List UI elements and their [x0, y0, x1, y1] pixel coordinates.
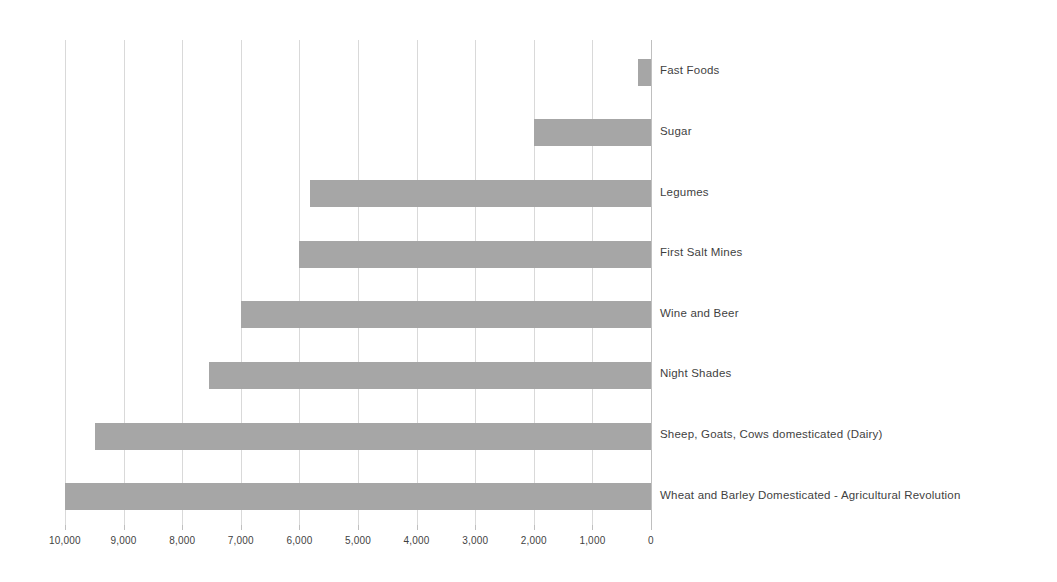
x-tick-mark — [182, 525, 183, 530]
x-tick-mark — [358, 525, 359, 530]
x-tick-mark — [299, 525, 300, 530]
bar[interactable] — [638, 59, 651, 86]
x-tick-mark — [241, 525, 242, 530]
bar-row — [65, 241, 651, 268]
gridline-7000 — [241, 40, 242, 525]
x-tick-mark — [592, 525, 593, 530]
x-tick-label: 10,000 — [35, 535, 95, 546]
bar-chart: Fast FoodsSugarLegumesFirst Salt MinesWi… — [0, 0, 1057, 582]
x-tick-label: 3,000 — [445, 535, 505, 546]
x-tick-label: 6,000 — [269, 535, 329, 546]
x-tick-label: 7,000 — [211, 535, 271, 546]
bar-row — [65, 301, 651, 328]
gridline-2000 — [534, 40, 535, 525]
bar[interactable] — [209, 362, 651, 389]
x-tick-label: 2,000 — [504, 535, 564, 546]
bar-row — [65, 59, 651, 86]
gridline-4000 — [417, 40, 418, 525]
gridline-8000 — [182, 40, 183, 525]
gridline-5000 — [358, 40, 359, 525]
gridline-6000 — [299, 40, 300, 525]
category-label: Sheep, Goats, Cows domesticated (Dairy) — [660, 428, 883, 440]
gridline-10000 — [65, 40, 66, 525]
category-label: Legumes — [660, 186, 709, 198]
bar-row — [65, 362, 651, 389]
x-tick-mark — [124, 525, 125, 530]
category-label: First Salt Mines — [660, 246, 742, 258]
category-label: Sugar — [660, 125, 692, 137]
x-tick-mark — [534, 525, 535, 530]
x-tick-label: 9,000 — [94, 535, 154, 546]
category-label: Wine and Beer — [660, 307, 739, 319]
x-tick-label: 0 — [621, 535, 681, 546]
x-tick-label: 8,000 — [152, 535, 212, 546]
bar-row — [65, 483, 651, 510]
bar-row — [65, 423, 651, 450]
bar[interactable] — [299, 241, 651, 268]
x-tick-mark — [475, 525, 476, 530]
category-label: Fast Foods — [660, 64, 720, 76]
bar[interactable] — [310, 180, 651, 207]
x-tick-mark — [651, 525, 652, 530]
x-tick-label: 1,000 — [562, 535, 622, 546]
bar[interactable] — [241, 301, 651, 328]
bar[interactable] — [534, 119, 651, 146]
x-tick-mark — [417, 525, 418, 530]
plot-area — [65, 40, 651, 525]
gridline-9000 — [124, 40, 125, 525]
bar-row — [65, 119, 651, 146]
bar[interactable] — [65, 483, 651, 510]
category-label: Wheat and Barley Domesticated - Agricult… — [660, 489, 961, 501]
x-tick-label: 5,000 — [328, 535, 388, 546]
gridline-1000 — [592, 40, 593, 525]
gridline-3000 — [475, 40, 476, 525]
axis-line-zero — [651, 40, 652, 525]
bar[interactable] — [95, 423, 651, 450]
category-label: Night Shades — [660, 367, 731, 379]
bar-row — [65, 180, 651, 207]
x-tick-label: 4,000 — [387, 535, 447, 546]
x-tick-mark — [65, 525, 66, 530]
